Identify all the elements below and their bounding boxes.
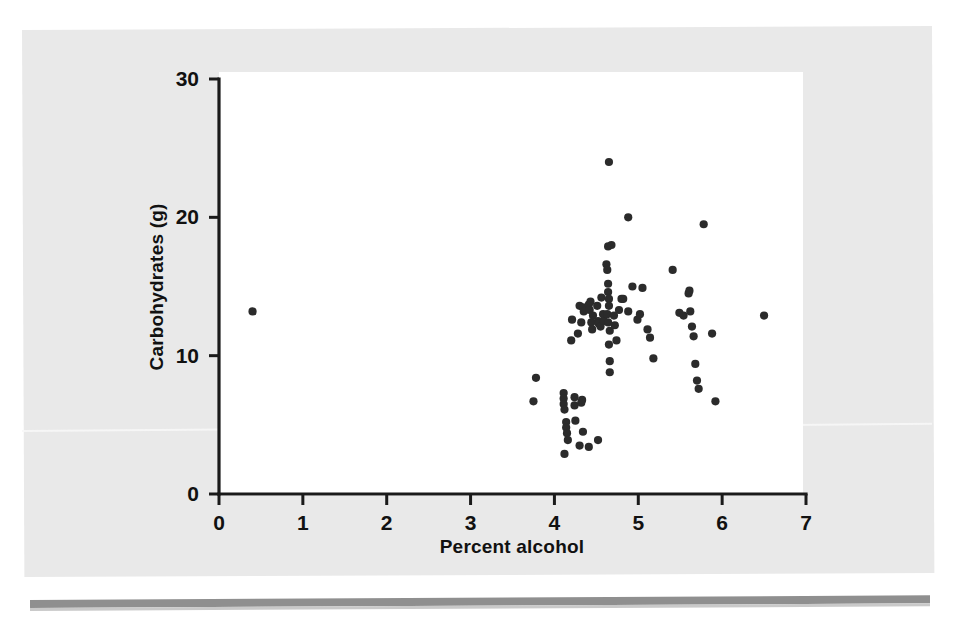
y-tick-label: 20 — [176, 205, 199, 228]
y-tick-label: 0 — [187, 482, 199, 505]
data-point — [571, 417, 579, 425]
data-point — [700, 220, 708, 228]
data-point — [669, 266, 677, 274]
data-point — [760, 311, 768, 319]
data-point — [578, 396, 586, 404]
data-point — [619, 295, 627, 303]
data-point — [646, 334, 654, 342]
x-tick-label: 6 — [716, 511, 728, 534]
data-point — [593, 302, 601, 310]
y-tick-label: 30 — [176, 67, 199, 90]
x-axis-ticks: 01234567 — [213, 494, 812, 534]
data-point — [711, 397, 719, 405]
data-point — [643, 325, 651, 333]
data-point — [603, 266, 611, 274]
data-point — [607, 241, 615, 249]
y-axis-title: Carbohydrates (g) — [146, 203, 167, 370]
data-point — [563, 429, 571, 437]
data-point — [597, 293, 605, 301]
x-tick-label: 4 — [549, 511, 561, 534]
data-point — [686, 307, 694, 315]
data-point — [564, 436, 572, 444]
scatter-chart: 0102030 01234567 Percent alcohol Carbohy… — [0, 0, 959, 634]
x-axis-title: Percent alcohol — [440, 536, 585, 557]
y-axis-ticks: 0102030 — [176, 67, 219, 505]
x-tick-label: 1 — [297, 511, 309, 534]
data-point — [575, 441, 583, 449]
data-point — [585, 443, 593, 451]
data-point — [638, 284, 646, 292]
data-point — [579, 428, 587, 436]
data-point — [688, 323, 696, 331]
data-point — [574, 329, 582, 337]
data-point — [628, 282, 636, 290]
data-point — [577, 318, 585, 326]
data-point — [567, 336, 575, 344]
data-point — [568, 316, 576, 324]
scatter-plot-figure: 0102030 01234567 Percent alcohol Carbohy… — [0, 0, 959, 634]
data-point — [624, 213, 632, 221]
data-point — [606, 357, 614, 365]
data-point — [604, 280, 612, 288]
data-point — [690, 332, 698, 340]
data-point — [605, 341, 613, 349]
data-point — [529, 397, 537, 405]
data-point — [691, 360, 699, 368]
data-points-layer — [248, 158, 768, 458]
data-point — [636, 310, 644, 318]
data-point — [695, 385, 703, 393]
data-point — [605, 302, 613, 310]
data-point — [560, 406, 568, 414]
data-point — [588, 325, 596, 333]
data-point — [615, 306, 623, 314]
data-point — [604, 288, 612, 296]
x-tick-label: 2 — [381, 511, 393, 534]
data-point — [693, 376, 701, 384]
x-tick-label: 3 — [465, 511, 477, 534]
x-tick-label: 7 — [800, 511, 812, 534]
x-tick-label: 5 — [632, 511, 644, 534]
data-point — [606, 368, 614, 376]
data-point — [708, 329, 716, 337]
data-point — [248, 307, 256, 315]
x-tick-label: 0 — [213, 511, 225, 534]
data-point — [685, 287, 693, 295]
data-point — [605, 158, 613, 166]
data-point — [612, 336, 620, 344]
data-point — [649, 354, 657, 362]
data-point — [594, 436, 602, 444]
data-point — [624, 307, 632, 315]
data-point — [532, 374, 540, 382]
y-tick-label: 10 — [176, 344, 199, 367]
data-point — [570, 393, 578, 401]
data-point — [611, 321, 619, 329]
data-point — [560, 450, 568, 458]
